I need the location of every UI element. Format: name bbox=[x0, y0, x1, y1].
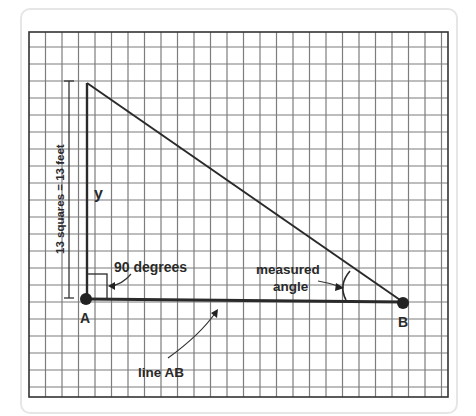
scale-label: 13 squares = 13 feet bbox=[54, 144, 66, 254]
point-a-dot bbox=[80, 293, 92, 305]
point-b-dot bbox=[397, 297, 409, 309]
right-angle-label: 90 degrees bbox=[114, 259, 187, 275]
line-ab-label: line AB bbox=[138, 365, 184, 380]
measured-angle-label-1: measured bbox=[256, 262, 320, 277]
triangle-diagram: 13 squares = 13 feet y A B 90 degrees me… bbox=[0, 0, 476, 416]
point-b-label: B bbox=[398, 314, 408, 330]
side-y-label: y bbox=[94, 185, 103, 202]
measured-angle-label-2: angle bbox=[273, 279, 309, 294]
point-a-label: A bbox=[80, 310, 90, 326]
